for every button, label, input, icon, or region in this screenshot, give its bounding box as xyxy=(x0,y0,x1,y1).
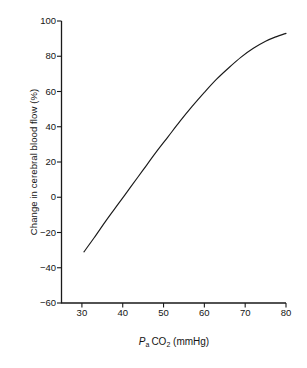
figure-container: Change in cerebral blood flow (%) 100806… xyxy=(0,0,307,368)
plot-area xyxy=(0,0,307,368)
axis-tick-marks xyxy=(57,21,286,308)
data-series-line xyxy=(84,33,286,252)
axis-lines xyxy=(62,21,287,303)
